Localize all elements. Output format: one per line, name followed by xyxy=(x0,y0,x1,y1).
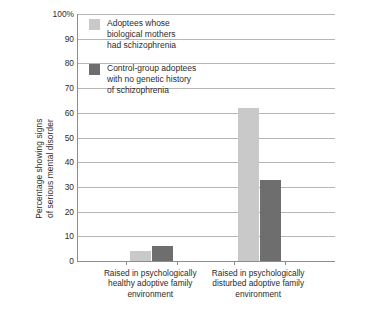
legend-entry-adoptees-schizophrenia: Adoptees whose biological mothers had sc… xyxy=(89,18,259,52)
legend-label-dark: Control-group adoptees with no genetic h… xyxy=(107,63,196,97)
legend-label-dark-line-3: of schizophrenia xyxy=(107,85,196,96)
y-tick-label-0: 0 xyxy=(42,257,74,265)
bar-series1-cat0 xyxy=(152,246,173,261)
legend-label-light-line-3: had schizophrenia xyxy=(107,40,176,51)
legend-swatch-dark xyxy=(89,64,100,75)
legend-label-light-line-1: Adoptees whose xyxy=(107,18,176,29)
y-axis-tick-labels: 0102030405060708090100% xyxy=(42,8,74,262)
y-tick-label-50: 50 xyxy=(42,133,74,141)
x-axis-category-label-1-line-1: Raised in psychologically xyxy=(188,268,328,278)
y-tick-label-20: 20 xyxy=(42,207,74,215)
legend-entry-control-group: Control-group adoptees with no genetic h… xyxy=(89,63,259,97)
y-tick-label-70: 70 xyxy=(42,84,74,92)
x-tick-mark-1-1 xyxy=(285,261,286,265)
y-tick-label-80: 80 xyxy=(42,59,74,67)
legend-label-dark-line-2: with no genetic history xyxy=(107,74,196,85)
bar-series0-cat0 xyxy=(130,251,151,261)
legend-label-dark-line-1: Control-group adoptees xyxy=(107,63,196,74)
gridline-10 xyxy=(78,236,335,237)
gridline-40 xyxy=(78,162,335,163)
gridline-30 xyxy=(78,187,335,188)
x-tick-mark-1-0 xyxy=(234,261,235,265)
x-axis-category-label-1-line-3: environment xyxy=(188,289,328,299)
x-tick-mark-0-1 xyxy=(177,261,178,265)
gridline-20 xyxy=(78,212,335,213)
gridline-50 xyxy=(78,138,335,139)
x-axis-category-label-1: Raised in psychologically disturbed adop… xyxy=(188,268,328,299)
bar-series1-cat1 xyxy=(260,180,281,262)
x-tick-mark-0-0 xyxy=(126,261,127,265)
y-tick-label-60: 60 xyxy=(42,109,74,117)
bar-series0-cat1 xyxy=(238,108,259,261)
legend-label-light: Adoptees whose biological mothers had sc… xyxy=(107,18,176,52)
legend-swatch-light xyxy=(89,19,100,30)
y-tick-label-10: 10 xyxy=(42,232,74,240)
y-tick-label-30: 30 xyxy=(42,183,74,191)
y-tick-label-100: 100% xyxy=(42,10,74,18)
gridline-100 xyxy=(78,14,335,15)
bar-chart-figure: Percentage showing signs of serious ment… xyxy=(0,0,370,328)
legend-label-light-line-2: biological mothers xyxy=(107,29,176,40)
x-axis-category-label-1-line-2: disturbed adoptive family xyxy=(188,278,328,288)
y-tick-label-40: 40 xyxy=(42,158,74,166)
y-tick-label-90: 90 xyxy=(42,34,74,42)
chart-legend: Adoptees whose biological mothers had sc… xyxy=(89,18,259,107)
gridline-60 xyxy=(78,113,335,114)
